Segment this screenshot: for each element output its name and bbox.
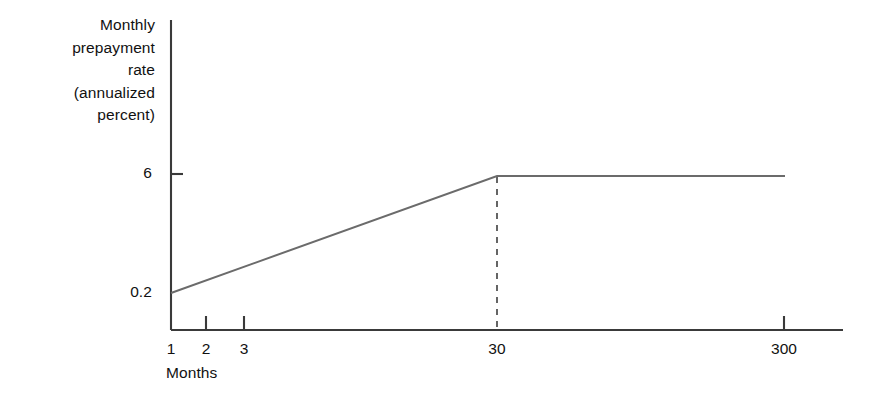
x-tick-label-3: 3 <box>230 340 258 358</box>
x-axis-title: Months <box>166 364 217 382</box>
x-tick-label-1: 1 <box>157 340 185 358</box>
series-prepayment-ramp <box>171 176 785 293</box>
y-tick-label-0-2: 0.2 <box>96 283 152 301</box>
x-tick-label-2: 2 <box>192 340 220 358</box>
x-tick-label-300: 300 <box>758 340 810 358</box>
x-tick-label-30: 30 <box>477 340 517 358</box>
y-tick-label-6: 6 <box>96 164 152 182</box>
chart-figure: Monthly prepayment rate (annualized perc… <box>0 0 885 399</box>
y-axis-title: Monthly prepayment rate (annualized perc… <box>18 14 155 127</box>
